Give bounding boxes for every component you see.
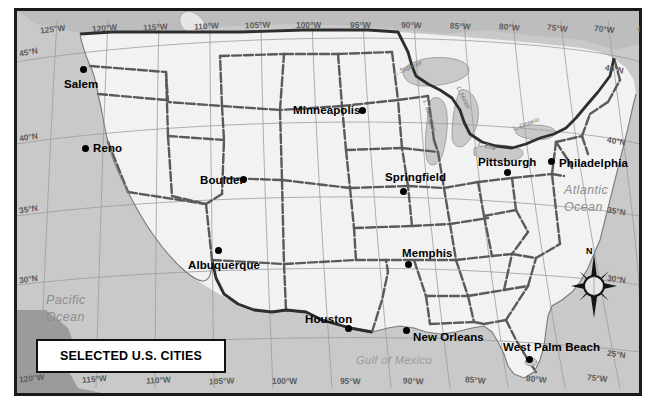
compass-rose: N — [567, 248, 621, 324]
map-geography — [16, 10, 640, 394]
map-title: SELECTED U.S. CITIES — [60, 349, 202, 363]
city-dot[interactable] — [345, 325, 352, 332]
city-dot[interactable] — [80, 66, 87, 73]
city-dot[interactable] — [400, 188, 407, 195]
city-dot[interactable] — [215, 247, 222, 254]
map-figure: L. Superior L. Michigan L. Huron L. Erie… — [0, 0, 651, 412]
city-dot[interactable] — [504, 169, 511, 176]
city-dot[interactable] — [82, 145, 89, 152]
city-dot[interactable] — [526, 356, 533, 363]
compass-rose-graphic — [567, 248, 621, 324]
city-dot[interactable] — [548, 158, 555, 165]
map-title-box: SELECTED U.S. CITIES — [36, 339, 226, 373]
map-frame: L. Superior L. Michigan L. Huron L. Erie… — [14, 8, 642, 396]
compass-north-label: N — [586, 246, 593, 256]
city-dot[interactable] — [403, 327, 410, 334]
city-dot[interactable] — [359, 107, 366, 114]
city-dot[interactable] — [240, 176, 247, 183]
city-dot[interactable] — [405, 261, 412, 268]
